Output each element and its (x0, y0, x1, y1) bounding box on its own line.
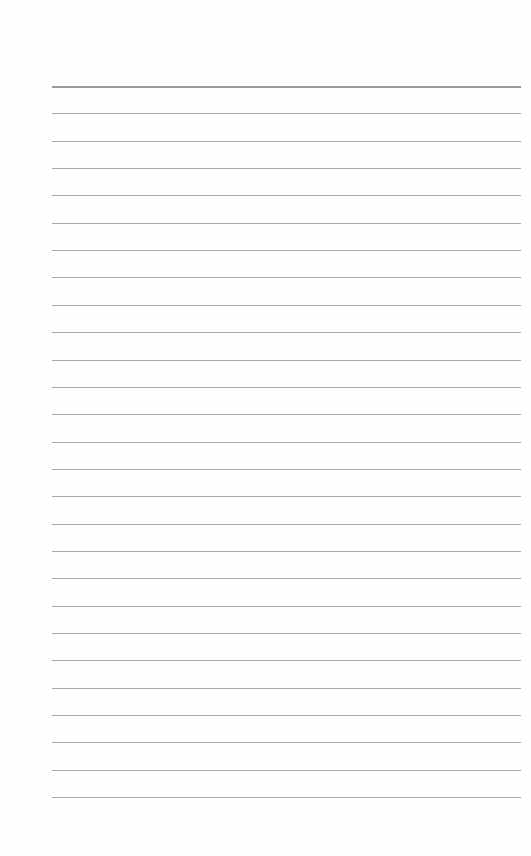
header-rule-line (52, 86, 521, 88)
rule-line (52, 250, 521, 251)
rule-line (52, 688, 521, 689)
rule-line (52, 168, 521, 169)
rule-line (52, 223, 521, 224)
rule-line (52, 360, 521, 361)
rule-line (52, 305, 521, 306)
rule-line (52, 524, 521, 525)
rule-line (52, 387, 521, 388)
lined-page (0, 0, 531, 856)
rule-line (52, 551, 521, 552)
rule-line (52, 770, 521, 771)
rule-line (52, 332, 521, 333)
rule-line (52, 414, 521, 415)
rule-line (52, 742, 521, 743)
rule-line (52, 195, 521, 196)
rule-line (52, 469, 521, 470)
rule-line (52, 606, 521, 607)
rule-line (52, 633, 521, 634)
rule-line (52, 442, 521, 443)
rule-line (52, 277, 521, 278)
rule-line (52, 496, 521, 497)
rule-line (52, 660, 521, 661)
rule-line (52, 797, 521, 798)
rule-line (52, 578, 521, 579)
rule-line (52, 141, 521, 142)
rule-line (52, 715, 521, 716)
rule-line (52, 113, 521, 114)
